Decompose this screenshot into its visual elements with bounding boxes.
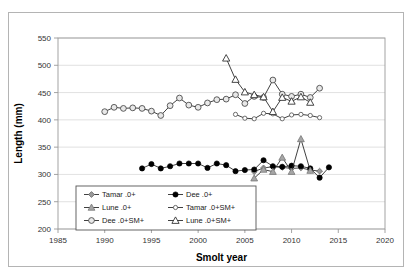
marker-circle-filled [233,169,238,174]
marker-circle-open-large [214,97,220,103]
marker-circle-filled [186,161,191,166]
marker-circle-filled [173,192,178,197]
marker-circle-open-large [205,100,211,106]
marker-circle-filled [214,161,219,166]
marker-circle-filled [326,165,331,170]
marker-diamond-grey [317,168,323,174]
legend-label: Tamar .0+ [102,190,136,199]
legend-label: Dee .0+SM+ [102,216,145,225]
marker-triangle-grey [279,154,286,160]
marker-circle-open-large [177,95,183,101]
marker-circle-filled [168,164,173,169]
y-axis-title: Length (mm) [13,103,24,164]
marker-triangle-open [232,76,239,82]
legend: Tamar .0+Dee .0+Lune .0+Tamar .0+SM+Dee … [76,186,256,230]
y-axis-tick-label: 300 [38,170,52,179]
marker-triangle-grey [298,136,305,142]
marker-circle-open-small [243,116,247,120]
marker-circle-open-small [261,111,265,115]
x-axis-tick-label: 1985 [49,236,67,245]
x-axis-tick-label: 2005 [236,236,254,245]
marker-triangle-open [241,88,248,94]
marker-circle-open-small [280,117,284,121]
x-axis-tick-label: 2020 [376,236,394,245]
series-dee-0-sm [102,77,323,118]
marker-circle-open-large [111,104,117,110]
marker-circle-open-large [158,113,164,119]
marker-circle-filled [224,163,229,168]
chart-figure: 550500450400350300250200Length (mm)19851… [0,0,412,278]
marker-circle-open-small [299,112,303,116]
marker-circle-filled [317,175,322,180]
marker-circle-open-small [173,205,177,209]
marker-circle-filled [205,165,210,170]
marker-circle-filled [149,161,154,166]
marker-circle-filled [280,164,285,169]
marker-circle-filled [139,166,144,171]
marker-circle-open-large [89,218,95,224]
marker-circle-open-large [121,106,127,112]
legend-label: Lune .0+SM+ [186,216,232,225]
marker-circle-open-small [308,113,312,117]
marker-triangle-open [288,98,295,104]
y-axis-tick-label: 550 [38,34,52,43]
marker-circle-open-small [252,117,256,121]
marker-circle-filled [242,167,247,172]
y-axis-tick-label: 400 [38,116,52,125]
marker-circle-filled [177,161,182,166]
series-line [226,58,310,111]
marker-circle-open-large [149,108,155,114]
marker-circle-open-large [233,92,239,98]
series-tamar-0-sm [233,111,321,121]
series-lune-0-sm [223,55,314,115]
x-axis-tick-label: 1995 [143,236,161,245]
marker-circle-open-large [167,103,173,109]
x-axis-tick-label: 1990 [96,236,114,245]
x-axis-title: Smolt year [196,252,247,263]
legend-label: Dee .0+ [186,190,213,199]
marker-circle-open-small [318,116,322,120]
marker-circle-filled [158,166,163,171]
y-axis-tick-label: 450 [38,89,52,98]
marker-circle-open-large [102,109,108,115]
x-axis-tick-label: 2015 [329,236,347,245]
marker-circle-open-large [270,77,276,83]
series-line [105,80,320,115]
marker-triangle-open [223,55,230,61]
marker-circle-open-large [223,96,229,102]
marker-circle-filled [252,167,257,172]
y-axis-tick-label: 350 [38,143,52,152]
marker-circle-open-small [233,112,237,116]
x-axis: 19851990199520002005201020152020Smolt ye… [49,229,394,263]
marker-circle-open-large [317,85,323,91]
x-axis-tick-label: 2000 [189,236,207,245]
marker-circle-filled [298,164,303,169]
y-axis: 550500450400350300250200Length (mm) [13,34,58,234]
marker-triangle-open [307,99,314,105]
marker-circle-filled [261,158,266,163]
legend-label: Tamar .0+SM+ [186,203,236,212]
series-line [236,113,320,118]
line-chart: 550500450400350300250200Length (mm)19851… [0,0,412,278]
x-axis-tick-label: 2010 [283,236,301,245]
y-axis-tick-label: 200 [38,225,52,234]
legend-label: Lune .0+ [102,203,132,212]
y-axis-tick-label: 250 [38,198,52,207]
marker-circle-open-small [289,113,293,117]
marker-circle-open-large [130,105,136,111]
marker-circle-open-large [139,106,145,112]
marker-circle-open-large [242,101,248,107]
marker-circle-open-large [195,104,201,110]
marker-triangle-open [269,108,276,114]
y-axis-tick-label: 500 [38,61,52,70]
marker-circle-open-large [186,102,192,108]
marker-circle-filled [196,161,201,166]
